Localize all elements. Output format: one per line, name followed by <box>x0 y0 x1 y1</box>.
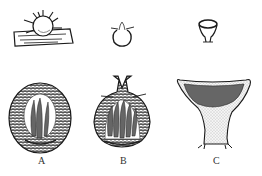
panel-b-top-view-illustration <box>111 22 134 46</box>
panel-c-label: C <box>213 156 220 166</box>
panel-a-label: A <box>38 156 45 166</box>
panel-b-label: B <box>120 156 127 166</box>
panel-c-section-illustration <box>177 79 250 149</box>
panel-a-section-illustration <box>9 83 71 153</box>
panel-c-top-view-illustration <box>199 20 217 42</box>
panel-b-section-illustration <box>94 76 150 147</box>
figure-canvas <box>0 0 262 176</box>
panel-a-top-view-illustration <box>14 10 73 46</box>
